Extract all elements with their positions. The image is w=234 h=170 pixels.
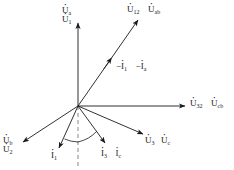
label-u-b-u-2: Ub U2: [3, 136, 13, 154]
phasor-diagram: Ua U1 U12 Uab −I1 −Ia U32 Ucb Ub U2 I1 I…: [0, 0, 234, 170]
label-minus-i-1: −I1: [116, 62, 127, 71]
label-u-32-u-cb: U32 Ucb: [190, 99, 223, 108]
label-u-c: Uc: [161, 136, 170, 145]
label-u-a-u-1: Ua U1: [62, 6, 72, 24]
angle-arc-left: [65, 139, 79, 142]
label-minus-i-a: −Ia: [136, 62, 147, 71]
angle-arc-right: [78, 131, 97, 142]
label-u-32: U32: [190, 99, 203, 108]
label-u-1: U1: [62, 15, 72, 24]
label-i-1: I1: [51, 151, 57, 160]
label-minus-i-1-minus-i-a: −I1 −Ia: [116, 62, 146, 71]
label-u-3: U3: [145, 136, 155, 145]
vector-u-12-midpoint-arrow: [104, 60, 110, 68]
label-i-c: Ic: [116, 149, 122, 158]
label-u-2: U2: [3, 145, 13, 154]
label-u-12-u-ab: U12 Uab: [127, 5, 160, 14]
label-i-3: I3: [101, 149, 107, 158]
label-u-3-u-c: U3 Uc: [145, 136, 170, 145]
label-i-3-i-c: I3 Ic: [101, 149, 121, 158]
label-i-1-symbol: I1: [51, 151, 57, 160]
label-u-ab: Uab: [148, 5, 160, 14]
label-u-cb: Ucb: [211, 99, 223, 108]
label-u-12: U12: [127, 5, 140, 14]
